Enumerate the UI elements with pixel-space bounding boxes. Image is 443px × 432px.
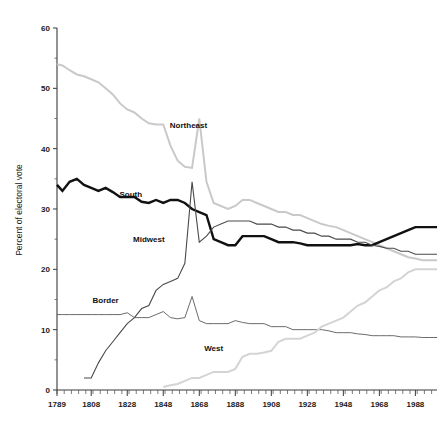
y-tick-label: 40 [41,145,50,154]
x-tick-label: 1868 [190,400,208,409]
series-label-west: West [204,344,223,353]
x-axis-ticks [57,390,432,396]
y-tick-label: 50 [41,84,50,93]
y-tick-label: 20 [41,265,50,274]
x-tick-label: 1808 [82,400,100,409]
x-tick-label: 1948 [334,400,352,409]
x-tick-label: 1908 [262,400,280,409]
series-label-border: Border [93,296,119,305]
series-label-south: South [120,190,143,199]
x-tick-label: 1968 [370,400,388,409]
chart-svg: 0102030405060 17891808182818481868188819… [0,0,443,432]
y-tick-label: 30 [41,205,50,214]
series-line-midwest [84,182,437,378]
x-axis-tick-labels: 1789180818281848186818881908192819481968… [48,400,425,409]
y-axis-ticks [53,28,57,390]
x-tick-label: 1789 [48,400,66,409]
x-tick-label: 1828 [118,400,136,409]
y-axis-title: Percent of electoral vote [14,164,24,256]
y-axis-tick-labels: 0102030405060 [41,24,50,395]
series-line-northeast [57,64,437,260]
series-line-south [57,179,437,245]
x-tick-label: 1848 [154,400,172,409]
series-lines-group [57,64,437,387]
series-label-midwest: Midwest [133,235,165,244]
y-tick-label: 60 [41,24,50,33]
series-label-northeast: Northeast [170,121,208,130]
x-tick-label: 1928 [298,400,316,409]
electoral-vote-line-chart: 0102030405060 17891808182818481868188819… [0,0,443,432]
series-line-west [163,269,437,387]
y-tick-label: 0 [46,386,51,395]
x-tick-label: 1888 [226,400,244,409]
y-tick-label: 10 [41,326,50,335]
x-tick-label: 1988 [406,400,424,409]
